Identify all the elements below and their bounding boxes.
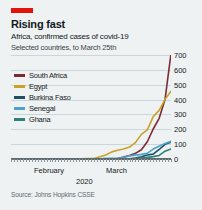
- x-tick: [91, 159, 92, 162]
- x-tick: [67, 159, 68, 162]
- x-tick: [14, 159, 15, 162]
- y-tick-label: 600: [174, 65, 200, 74]
- x-tick: [156, 159, 157, 162]
- x-tick: [97, 159, 98, 162]
- x-tick: [11, 159, 12, 162]
- x-tick: [73, 159, 74, 162]
- y-tick-label: 0: [174, 155, 200, 164]
- y-tick-label: 400: [174, 95, 200, 104]
- x-tick: [20, 159, 21, 162]
- x-tick: [144, 159, 145, 162]
- x-tick: [121, 159, 122, 162]
- x-tick: [29, 159, 30, 162]
- x-axis-title: 2020: [76, 177, 93, 186]
- x-tick: [44, 159, 45, 162]
- x-axis-ticks: [11, 159, 171, 163]
- x-tick: [47, 159, 48, 162]
- x-tick: [118, 159, 119, 162]
- legend-item: South Africa: [14, 70, 71, 81]
- legend-swatch: [14, 96, 25, 99]
- x-tick: [150, 159, 151, 162]
- x-tick: [168, 159, 169, 162]
- legend-label: Senegal: [29, 104, 55, 113]
- x-tick: [153, 159, 154, 162]
- legend-swatch: [14, 118, 25, 121]
- series-line: [11, 141, 171, 159]
- legend-item: Senegal: [14, 103, 71, 114]
- x-tick: [82, 159, 83, 162]
- y-tick-label: 700: [174, 51, 200, 60]
- x-tick: [76, 159, 77, 162]
- economist-red-tab: [11, 8, 33, 13]
- x-tick: [32, 159, 33, 162]
- x-tick: [17, 159, 18, 162]
- x-tick: [41, 159, 42, 162]
- x-tick: [85, 159, 86, 162]
- x-tick: [64, 159, 65, 162]
- x-tick: [124, 159, 125, 162]
- x-tick: [171, 159, 172, 162]
- x-tick: [50, 159, 51, 162]
- legend-label: Ghana: [29, 115, 51, 124]
- legend-label: South Africa: [29, 71, 67, 80]
- x-tick: [106, 159, 107, 162]
- legend-label: Burkina Faso: [29, 93, 71, 102]
- y-tick-label: 500: [174, 80, 200, 89]
- x-tick: [100, 159, 101, 162]
- x-tick: [88, 159, 89, 162]
- chart-card: Rising fast Africa, confirmed cases of c…: [0, 0, 202, 210]
- x-tick-label-february: February: [34, 166, 64, 175]
- x-tick: [159, 159, 160, 162]
- x-tick: [103, 159, 104, 162]
- x-tick: [38, 159, 39, 162]
- x-tick: [147, 159, 148, 162]
- legend-item: Egypt: [14, 81, 71, 92]
- x-tick: [94, 159, 95, 162]
- legend-label: Egypt: [29, 82, 47, 91]
- y-axis-labels: 0100200300400500600700: [174, 50, 202, 164]
- x-tick: [70, 159, 71, 162]
- x-tick: [141, 159, 142, 162]
- x-tick: [55, 159, 56, 162]
- x-tick: [79, 159, 80, 162]
- x-tick: [132, 159, 133, 162]
- x-tick: [23, 159, 24, 162]
- source-note: Source: Johns Hopkins CSSE: [11, 191, 95, 198]
- y-tick-label: 200: [174, 125, 200, 134]
- x-tick: [115, 159, 116, 162]
- x-tick: [58, 159, 59, 162]
- chart-title: Rising fast: [11, 18, 65, 30]
- series-line: [11, 142, 171, 159]
- chart-subtitle: Africa, confirmed cases of covid-19: [11, 32, 129, 41]
- x-tick: [112, 159, 113, 162]
- x-tick: [35, 159, 36, 162]
- y-tick-label: 100: [174, 140, 200, 149]
- legend-swatch: [14, 107, 25, 110]
- x-tick: [61, 159, 62, 162]
- x-tick-label-march: March: [106, 166, 127, 175]
- x-tick: [109, 159, 110, 162]
- x-tick: [52, 159, 53, 162]
- legend-item: Ghana: [14, 114, 71, 125]
- x-tick: [127, 159, 128, 162]
- legend-item: Burkina Faso: [14, 92, 71, 103]
- x-tick: [138, 159, 139, 162]
- x-tick: [162, 159, 163, 162]
- x-tick: [165, 159, 166, 162]
- legend-swatch: [14, 85, 25, 88]
- chart-subtitle-secondary: Selected countries, to March 25th: [11, 43, 116, 52]
- x-tick: [26, 159, 27, 162]
- x-tick: [135, 159, 136, 162]
- legend: South AfricaEgyptBurkina FasoSenegalGhan…: [14, 70, 71, 125]
- y-tick-label: 300: [174, 110, 200, 119]
- legend-swatch: [14, 74, 25, 77]
- x-tick: [130, 159, 131, 162]
